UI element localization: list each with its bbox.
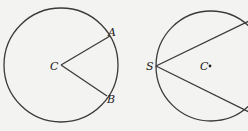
figure-inscribed-angle: C S — [146, 11, 248, 121]
radius-ca — [61, 36, 110, 65]
label-point-a: A — [107, 26, 116, 39]
radius-cb — [61, 65, 107, 96]
label-center-c: C — [200, 60, 209, 73]
label-center-c: C — [50, 60, 59, 73]
figure-central-angle: C A B — [4, 8, 118, 122]
center-dot — [209, 65, 212, 68]
label-point-b: B — [106, 93, 115, 106]
geometry-diagram: C A B C S — [0, 0, 248, 131]
label-vertex-s: S — [146, 60, 154, 73]
